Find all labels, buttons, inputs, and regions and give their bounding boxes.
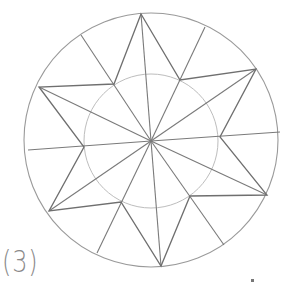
spoke-line	[151, 141, 267, 195]
spoke-line	[49, 141, 151, 211]
spoke-line	[81, 35, 151, 141]
spoke-line	[151, 69, 256, 141]
spoke-line	[28, 141, 151, 150]
spoke-line	[141, 14, 151, 141]
spoke-line	[151, 132, 280, 141]
figure-label: (3)	[2, 244, 38, 279]
star-diagram	[0, 0, 285, 282]
spoke-line	[151, 141, 224, 245]
spoke-line	[151, 141, 161, 266]
spoke-line	[39, 87, 151, 141]
